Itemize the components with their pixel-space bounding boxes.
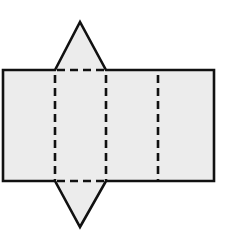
prism-net-diagram: Net of a triangular prism: a rectangle d… [0, 0, 226, 236]
net-outline [3, 22, 214, 227]
